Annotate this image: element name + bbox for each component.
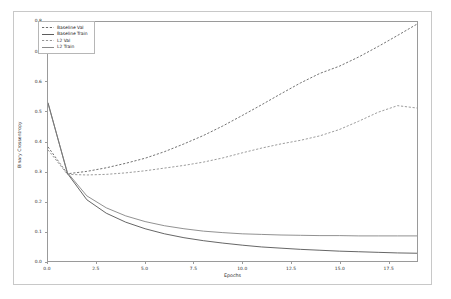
x-tick-mark bbox=[242, 262, 243, 264]
legend-label: Baseline Train bbox=[57, 31, 88, 38]
plot-lines bbox=[48, 22, 417, 261]
y-tick-label: 0.1 bbox=[23, 229, 42, 234]
y-tick-label: 0.4 bbox=[23, 139, 42, 144]
legend: Baseline ValBaseline TrainL2 ValL2 Train bbox=[38, 21, 95, 54]
y-tick-mark bbox=[45, 232, 47, 233]
y-tick-mark bbox=[45, 81, 47, 82]
y-tick-label: 0.2 bbox=[23, 199, 42, 204]
legend-swatch-solid-icon bbox=[42, 45, 54, 50]
y-tick-mark bbox=[45, 202, 47, 203]
x-tick-label: 5.0 bbox=[135, 266, 155, 271]
x-tick-mark bbox=[291, 262, 292, 264]
legend-swatch-dashed-icon bbox=[42, 25, 54, 30]
x-tick-label: 0.0 bbox=[37, 266, 57, 271]
series-line-baseline-train bbox=[48, 103, 417, 254]
y-axis-label: Binary Crossentropy bbox=[17, 121, 22, 168]
legend-swatch-solid-icon bbox=[42, 32, 54, 37]
y-tick-label: 0.6 bbox=[23, 79, 42, 84]
y-tick-mark bbox=[45, 172, 47, 173]
series-line-baseline-val bbox=[48, 24, 417, 174]
x-tick-mark bbox=[193, 262, 194, 264]
legend-swatch-dashed-icon bbox=[42, 38, 54, 43]
x-tick-mark bbox=[340, 262, 341, 264]
legend-item: L2 Val bbox=[42, 38, 91, 45]
plot-area bbox=[47, 21, 418, 262]
x-axis-label: Epochs bbox=[193, 273, 273, 278]
x-tick-label: 12.5 bbox=[281, 266, 301, 271]
series-line-l2-train bbox=[48, 104, 417, 236]
legend-item: L2 Train bbox=[42, 44, 91, 51]
legend-item: Baseline Val bbox=[42, 25, 91, 32]
y-tick-label: 0.0 bbox=[23, 259, 42, 264]
x-tick-label: 2.5 bbox=[86, 266, 106, 271]
legend-label: L2 Train bbox=[57, 44, 74, 51]
figure: 0.00.10.20.30.40.50.60.70.8 0.02.55.07.5… bbox=[0, 0, 451, 299]
legend-label: Baseline Val bbox=[57, 25, 84, 32]
legend-item: Baseline Train bbox=[42, 31, 91, 38]
x-tick-label: 10.0 bbox=[232, 266, 252, 271]
y-tick-mark bbox=[45, 111, 47, 112]
legend-label: L2 Val bbox=[57, 38, 70, 45]
x-tick-mark bbox=[47, 262, 48, 264]
x-tick-label: 7.5 bbox=[183, 266, 203, 271]
x-tick-mark bbox=[389, 262, 390, 264]
x-tick-label: 15.0 bbox=[330, 266, 350, 271]
x-tick-mark bbox=[96, 262, 97, 264]
y-tick-label: 0.3 bbox=[23, 169, 42, 174]
series-line-l2-val bbox=[48, 106, 417, 175]
x-tick-label: 17.5 bbox=[379, 266, 399, 271]
x-tick-mark bbox=[145, 262, 146, 264]
y-tick-mark bbox=[45, 142, 47, 143]
y-tick-label: 0.5 bbox=[23, 109, 42, 114]
